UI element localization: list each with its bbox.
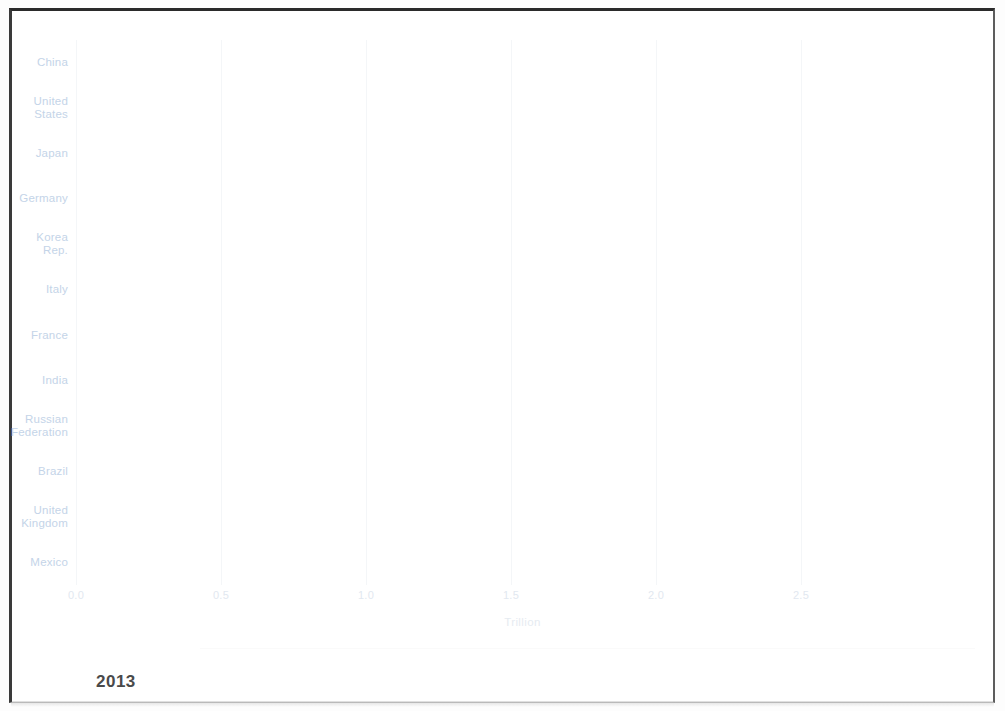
- y-label-china: China: [37, 56, 68, 69]
- bar-brazil[interactable]: [76, 453, 157, 489]
- bar-united-kingdom[interactable]: [76, 499, 157, 535]
- y-label-germany: Germany: [19, 192, 68, 205]
- y-label-korea-rep.: Korea Rep.: [36, 231, 68, 257]
- bar-united-states[interactable]: [76, 90, 676, 126]
- y-label-brazil: Brazil: [38, 465, 68, 478]
- y-axis-category-labels: ChinaUnited StatesJapanGermanyKorea Rep.…: [8, 40, 68, 585]
- x-tick-label: 0.5: [213, 589, 229, 601]
- bar-china[interactable]: [76, 45, 946, 81]
- x-tick-label: 2.5: [793, 589, 809, 601]
- bar-france[interactable]: [76, 317, 169, 353]
- x-tick-label: 0.0: [68, 589, 84, 601]
- bar-russian-federation[interactable]: [76, 408, 157, 444]
- bar-japan[interactable]: [76, 136, 378, 172]
- bar-germany[interactable]: [76, 181, 305, 217]
- y-label-mexico: Mexico: [30, 556, 68, 569]
- y-label-united-states: United States: [34, 95, 68, 121]
- y-label-japan: Japan: [36, 147, 68, 160]
- x-tick-label: 2.0: [648, 589, 664, 601]
- y-label-russian-federation: Russian Federation: [11, 413, 68, 439]
- x-tick-label: 1.5: [503, 589, 519, 601]
- x-axis-title: Trillion: [0, 616, 1005, 628]
- bar-korea-rep.[interactable]: [76, 226, 189, 262]
- bar-india[interactable]: [76, 363, 169, 399]
- y-label-france: France: [31, 329, 68, 342]
- y-label-india: India: [42, 374, 68, 387]
- year-annotation: 2013: [96, 672, 136, 692]
- y-label-italy: Italy: [46, 283, 68, 296]
- plot-area: [76, 40, 946, 585]
- x-tick-label: 1.0: [358, 589, 374, 601]
- caption-divider: [200, 648, 975, 649]
- chart-screenshot: ChinaUnited StatesJapanGermanyKorea Rep.…: [0, 0, 1005, 711]
- y-label-united-kingdom: United Kingdom: [21, 504, 68, 530]
- bar-mexico[interactable]: [76, 544, 143, 580]
- bar-italy[interactable]: [76, 272, 169, 308]
- x-axis-tick-labels: 0.00.51.01.52.02.5: [76, 589, 946, 605]
